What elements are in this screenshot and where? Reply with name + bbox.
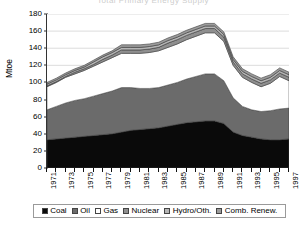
x-tick-label: 1985 [180, 172, 188, 189]
x-tick-label: 1995 [273, 172, 281, 189]
y-tick-label: 40 [2, 130, 42, 138]
stacked-area-plot [47, 14, 289, 168]
x-tick-label: 1977 [105, 172, 113, 189]
x-tick-mark [195, 168, 196, 172]
x-tick-mark [167, 168, 168, 172]
x-tick-label: 1973 [68, 172, 76, 189]
legend-label: Nuclear [132, 207, 160, 215]
y-tick-label: 20 [2, 147, 42, 155]
x-tick-mark [102, 168, 103, 172]
x-tick-mark [269, 168, 270, 172]
x-tick-mark [288, 168, 289, 172]
x-tick-mark [232, 168, 233, 172]
x-axis-labels: 1971197319751977197919811983198519871989… [46, 172, 288, 198]
legend-item: Gas [95, 207, 118, 215]
legend-label: Hydro/Oth. [173, 207, 212, 215]
legend-label: Oil [80, 207, 90, 215]
x-tick-mark [241, 168, 242, 172]
plot-area [46, 14, 288, 168]
y-tick-label: 80 [2, 96, 42, 104]
x-tick-label: 1987 [198, 172, 206, 189]
y-tick-label: 60 [2, 113, 42, 121]
x-tick-mark [204, 168, 205, 172]
x-tick-mark [46, 168, 47, 172]
x-tick-mark [111, 168, 112, 172]
legend-label: Gas [103, 207, 118, 215]
x-tick-mark [120, 168, 121, 172]
x-tick-label: 1979 [124, 172, 132, 189]
legend-swatch-oil [72, 208, 78, 214]
y-tick-label: 140 [2, 44, 42, 52]
x-tick-mark [223, 168, 224, 172]
y-tick-label: 100 [2, 78, 42, 86]
x-tick-mark [83, 168, 84, 172]
legend-item: Nuclear [123, 207, 159, 215]
x-tick-mark [251, 168, 252, 172]
legend-item: Comb. Renew. [216, 207, 277, 215]
legend-swatch-hydro [164, 208, 170, 214]
x-tick-mark [148, 168, 149, 172]
x-tick-label: 1983 [161, 172, 169, 189]
x-tick-label: 1993 [254, 172, 262, 189]
x-tick-mark [139, 168, 140, 172]
x-tick-mark [279, 168, 280, 172]
legend-item: Coal [42, 207, 67, 215]
legend-label: Coal [50, 207, 66, 215]
y-tick-label: 160 [2, 27, 42, 35]
x-tick-mark [93, 168, 94, 172]
clipped-title: Total Primary Energy Supply [0, 0, 306, 9]
x-tick-label: 1991 [236, 172, 244, 189]
x-tick-label: 1989 [217, 172, 225, 189]
chart-figure: Total Primary Energy Supply Mtoe 0204060… [0, 0, 306, 228]
x-tick-mark [55, 168, 56, 172]
chart-legend: CoalOilGasNuclearHydro/Oth.Comb. Renew. [33, 204, 286, 218]
x-tick-mark [214, 168, 215, 172]
x-tick-mark [176, 168, 177, 172]
x-tick-label: 1971 [50, 172, 58, 189]
y-axis-ticks: 020406080100120140160180 [0, 14, 46, 168]
legend-label: Comb. Renew. [225, 207, 277, 215]
x-tick-mark [158, 168, 159, 172]
y-tick-label: 180 [2, 10, 42, 18]
y-tick-label: 120 [2, 61, 42, 69]
legend-swatch-comb-renew [216, 208, 222, 214]
x-tick-label: 1981 [143, 172, 151, 189]
x-tick-label: 1975 [87, 172, 95, 189]
legend-item: Hydro/Oth. [164, 207, 211, 215]
x-tick-mark [65, 168, 66, 172]
x-tick-mark [260, 168, 261, 172]
x-tick-mark [74, 168, 75, 172]
y-tick-label: 0 [2, 164, 42, 172]
legend-item: Oil [72, 207, 90, 215]
legend-swatch-coal [42, 208, 48, 214]
legend-swatch-gas [95, 208, 101, 214]
x-tick-mark [186, 168, 187, 172]
x-tick-label: 1997 [292, 172, 300, 189]
legend-swatch-nuclear [123, 208, 129, 214]
x-tick-mark [130, 168, 131, 172]
